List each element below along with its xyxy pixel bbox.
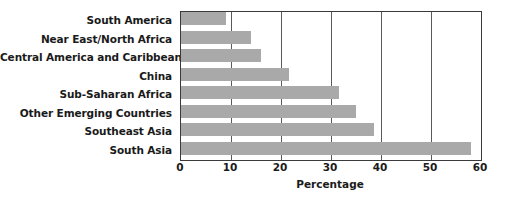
category-label-other-emerging-countries: Other Emerging Countries — [0, 104, 172, 123]
x-tick-label-20: 20 — [273, 161, 288, 173]
bar-china — [181, 68, 289, 81]
bar-sub-saharan-africa — [181, 86, 339, 99]
x-tick-label-0: 0 — [176, 161, 183, 173]
bar-south-asia — [181, 142, 471, 155]
bar-row — [181, 123, 481, 142]
bar-row — [181, 12, 481, 31]
bar-row — [181, 49, 481, 68]
x-axis: 0102030405060 — [180, 161, 480, 177]
x-tick-label-50: 50 — [423, 161, 438, 173]
category-label-central-america-caribbean: Central America and Caribbean — [0, 48, 172, 67]
category-label-near-east-north-africa: Near East/North Africa — [0, 30, 172, 49]
x-tick-label-30: 30 — [323, 161, 338, 173]
x-tick-label-60: 60 — [473, 161, 488, 173]
bar-row — [181, 105, 481, 124]
plot-area — [180, 11, 482, 161]
bar-row — [181, 31, 481, 50]
category-label-south-america: South America — [0, 11, 172, 30]
x-tick-label-40: 40 — [373, 161, 388, 173]
bar-other-emerging-countries — [181, 105, 356, 118]
x-tick-label-10: 10 — [223, 161, 238, 173]
bar-central-america-caribbean — [181, 49, 261, 62]
bar-near-east-north-africa — [181, 31, 251, 44]
bars-layer — [181, 12, 481, 160]
category-label-china: China — [0, 67, 172, 86]
category-label-sub-saharan-africa: Sub-Saharan Africa — [0, 85, 172, 104]
bar-row — [181, 68, 481, 87]
category-label-south-asia: South Asia — [0, 141, 172, 160]
bar-row — [181, 86, 481, 105]
bar-south-america — [181, 12, 226, 25]
category-label-southeast-asia: Southeast Asia — [0, 122, 172, 141]
bar-row — [181, 142, 481, 161]
bar-chart: South America Near East/North Africa Cen… — [0, 0, 513, 199]
x-axis-title: Percentage — [180, 178, 480, 190]
category-axis: South America Near East/North Africa Cen… — [0, 11, 172, 159]
bar-southeast-asia — [181, 123, 374, 136]
